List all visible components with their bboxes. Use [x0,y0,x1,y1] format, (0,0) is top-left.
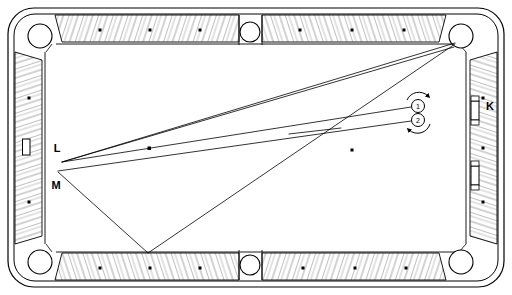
pool-table-svg: 1 2 K L M [0,0,512,295]
ball-2[interactable]: 2 [412,114,425,127]
rail-bottom-left [55,253,239,280]
ball-1[interactable]: 1 [412,100,425,113]
label-L: L [54,142,61,154]
pocket-top-right[interactable] [449,24,473,48]
sight-right-rail-lower [471,161,479,190]
sight-right-rail-upper [471,96,479,125]
rail-top-left [55,15,239,42]
ball-1-number: 1 [416,103,420,110]
label-K: K [486,100,494,112]
billiard-diagram: 1 2 K L M [0,0,512,295]
pocket-bottom-left[interactable] [28,250,52,274]
ball-2-number: 2 [416,117,420,124]
pocket-top-left[interactable] [28,24,52,48]
sight-left-rail [23,139,31,155]
pocket-bottom-right[interactable] [449,250,473,274]
label-M: M [51,179,60,191]
rail-top-right [262,15,446,42]
